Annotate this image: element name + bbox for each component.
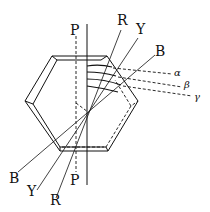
crystal-dispersion-diagram: P P R Y B B Y R α β γ [0, 0, 210, 212]
ray-red [56, 30, 121, 198]
angle-label-gamma: γ [194, 91, 200, 102]
axis-label-bottom: P [70, 172, 79, 188]
ray-label-top-y: Y [135, 21, 146, 37]
ray-label-bottom-y: Y [26, 183, 37, 199]
hexagonal-crystal [25, 56, 138, 151]
axis-label-top: P [70, 22, 79, 38]
ray-label-bottom-r: R [50, 192, 61, 208]
ray-label-top-b: B [155, 43, 165, 59]
ray-label-top-r: R [117, 12, 128, 28]
angle-label-alpha: α [174, 67, 181, 78]
ray-label-bottom-b: B [9, 170, 19, 186]
angle-label-beta: β [183, 79, 190, 90]
